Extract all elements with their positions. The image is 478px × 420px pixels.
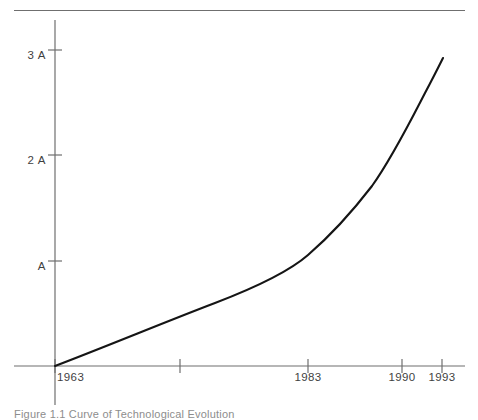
figure-caption: Figure 1.1 Curve of Technological Evolut… — [14, 408, 235, 420]
x-tick-label-1990: 1990 — [388, 372, 415, 384]
x-tick-label-1993: 1993 — [428, 372, 455, 384]
x-tick-label-1983: 1983 — [294, 372, 321, 384]
x-tick-label-1990-text: 1990 — [388, 372, 415, 384]
y-tick-label-a-text: A — [38, 261, 46, 273]
x-tick-label-1983-text: 1983 — [294, 372, 321, 384]
x-tick-label-1963-text: 1963 — [57, 372, 84, 384]
y-tick-label-2a-text: 2 A — [28, 155, 46, 167]
x-tick-label-1993-text: 1993 — [428, 372, 455, 384]
growth-curve — [55, 58, 443, 366]
y-tick-label-3a-text: 3 A — [28, 50, 46, 62]
x-tick-label-1963: 1963 — [57, 372, 84, 384]
